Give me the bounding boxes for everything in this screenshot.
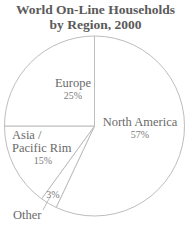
- label-asia-pacific-pct-wrap: 15%: [28, 155, 58, 167]
- label-other-name: Other: [13, 209, 41, 222]
- label-europe: Europe 25%: [38, 77, 108, 102]
- label-other-pct: 3%: [43, 189, 63, 201]
- label-asia-pacific: Asia / Pacific Rim: [12, 129, 71, 155]
- label-north-america-pct: 57%: [97, 129, 183, 141]
- label-europe-pct: 25%: [38, 90, 108, 102]
- label-north-america-name: North America: [97, 116, 183, 129]
- label-other-pct-wrap: 3%: [43, 189, 63, 201]
- pie-chart: [0, 0, 191, 225]
- label-europe-name: Europe: [38, 77, 108, 90]
- label-asia-pacific-name-2: Pacific Rim: [12, 142, 71, 155]
- label-north-america: North America 57%: [97, 116, 183, 141]
- label-other: Other: [13, 209, 41, 222]
- label-asia-pacific-pct: 15%: [28, 155, 58, 167]
